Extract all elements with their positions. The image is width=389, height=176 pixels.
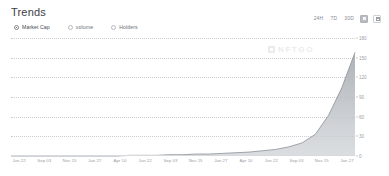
radio-label-holders: Holders [119, 24, 138, 30]
y-axis-tick: 90 [359, 95, 364, 100]
range-7d[interactable]: 7D [329, 14, 338, 23]
radio-label-market-cap: Market Cap [22, 24, 50, 30]
range-30d[interactable]: 30D [343, 14, 355, 23]
calendar-icon[interactable] [373, 15, 381, 23]
area-series [11, 38, 355, 156]
x-axis-tick: Sep 03 [163, 158, 177, 164]
chart-view-icon[interactable] [360, 15, 368, 23]
x-axis-tick: Sep 03 [37, 158, 51, 164]
x-axis-tick: Nov 15 [315, 158, 329, 164]
page-title: Trends [11, 6, 46, 18]
y-axis-labels: 0306090120150180 [357, 38, 387, 156]
x-axis-tick: Jan 27 [214, 158, 227, 164]
x-axis-tick: Nov 15 [62, 158, 76, 164]
range-24h[interactable]: 24H [313, 14, 325, 23]
trends-panel: Trends Market Cap volume Holders 24H 7D … [0, 0, 389, 176]
radio-label-volume: volume [76, 24, 93, 30]
x-axis-tick: Apr 10 [240, 158, 253, 164]
radio-volume[interactable]: volume [68, 24, 93, 30]
x-axis-tick: Jan 27 [340, 158, 353, 164]
x-axis-tick: Apr 10 [113, 158, 126, 164]
trends-chart [11, 38, 355, 156]
x-axis-tick: Jun 22 [265, 158, 278, 164]
x-axis-tick: Jun 22 [139, 158, 152, 164]
y-axis-tick: 150 [359, 55, 367, 60]
y-axis-tick: 120 [359, 75, 367, 80]
x-axis-tick: Sep 03 [290, 158, 304, 164]
y-axis-tick: 30 [359, 134, 364, 139]
radio-dot-icon [14, 25, 19, 30]
x-axis-tick: Nov 15 [189, 158, 203, 164]
x-axis-labels: Jun 22Sep 03Nov 15Jan 27Apr 10Jun 22Sep … [11, 158, 355, 168]
y-axis-tick: 180 [359, 36, 367, 41]
metric-radio-group: Market Cap volume Holders [14, 24, 138, 30]
x-axis-tick: Jun 22 [12, 158, 25, 164]
radio-holders[interactable]: Holders [111, 24, 138, 30]
y-axis-tick: 60 [359, 114, 364, 119]
range-selector: 24H 7D 30D [313, 14, 381, 23]
x-axis-line [11, 155, 355, 156]
x-axis-tick: Jan 27 [88, 158, 101, 164]
y-axis-tick: 0 [359, 154, 362, 159]
radio-market-cap[interactable]: Market Cap [14, 24, 50, 30]
radio-dot-icon [111, 25, 116, 30]
radio-dot-icon [68, 25, 73, 30]
